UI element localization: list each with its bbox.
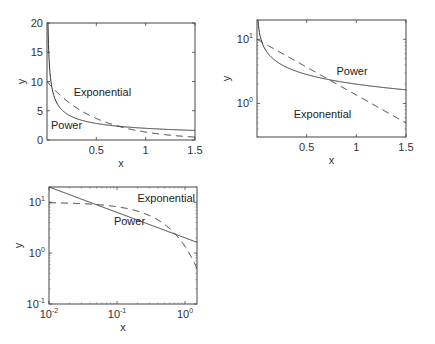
- tick-label: 100: [29, 246, 45, 259]
- power-annotation: Power: [336, 65, 368, 77]
- x-axis-label: x: [118, 157, 124, 169]
- tick-label: 101: [237, 32, 253, 45]
- power-curve: [48, 23, 195, 130]
- exponential-curve: [49, 203, 197, 269]
- exponential-annotation: Exponential: [294, 108, 352, 120]
- x-axis-label: x: [120, 321, 126, 333]
- tick-label: 1.5: [398, 141, 413, 153]
- tick-label: 101: [29, 195, 45, 208]
- plot-panel-bottom-left: 10-210-110010-1100101xyExponentialPower: [12, 187, 197, 333]
- tick-label: 1.5: [187, 144, 202, 156]
- tick-label: 5: [37, 105, 43, 117]
- tick-label: 0: [37, 134, 43, 146]
- y-axis-label: y: [15, 78, 27, 84]
- x-axis-label: x: [329, 154, 335, 166]
- axes-frame: [49, 187, 197, 304]
- figure-canvas: 0.511.505101520xyExponentialPower0.511.5…: [0, 0, 435, 344]
- power-annotation: Power: [51, 119, 83, 131]
- y-axis-label: y: [12, 242, 24, 248]
- plot-panel-top-left: 0.511.505101520xyExponentialPower: [15, 17, 203, 169]
- tick-label: 1: [143, 144, 149, 156]
- tick-label: 20: [31, 17, 43, 29]
- power-annotation: Power: [114, 215, 146, 227]
- exponential-annotation: Exponential: [74, 86, 132, 98]
- power-curve: [258, 20, 406, 90]
- tick-label: 10-2: [40, 307, 59, 320]
- tick-label: 1: [353, 141, 359, 153]
- tick-label: 15: [31, 46, 43, 58]
- tick-label: 10-1: [108, 307, 127, 320]
- tick-label: 100: [237, 96, 253, 109]
- exponential-annotation: Exponential: [137, 192, 195, 204]
- tick-label: 0.5: [89, 144, 104, 156]
- plot-panel-top-right: 0.511.5100101xyPowerExponential: [220, 20, 414, 166]
- tick-label: 100: [177, 307, 193, 320]
- y-axis-label: y: [220, 75, 232, 81]
- tick-label: 0.5: [299, 141, 314, 153]
- tick-label: 10: [31, 76, 43, 88]
